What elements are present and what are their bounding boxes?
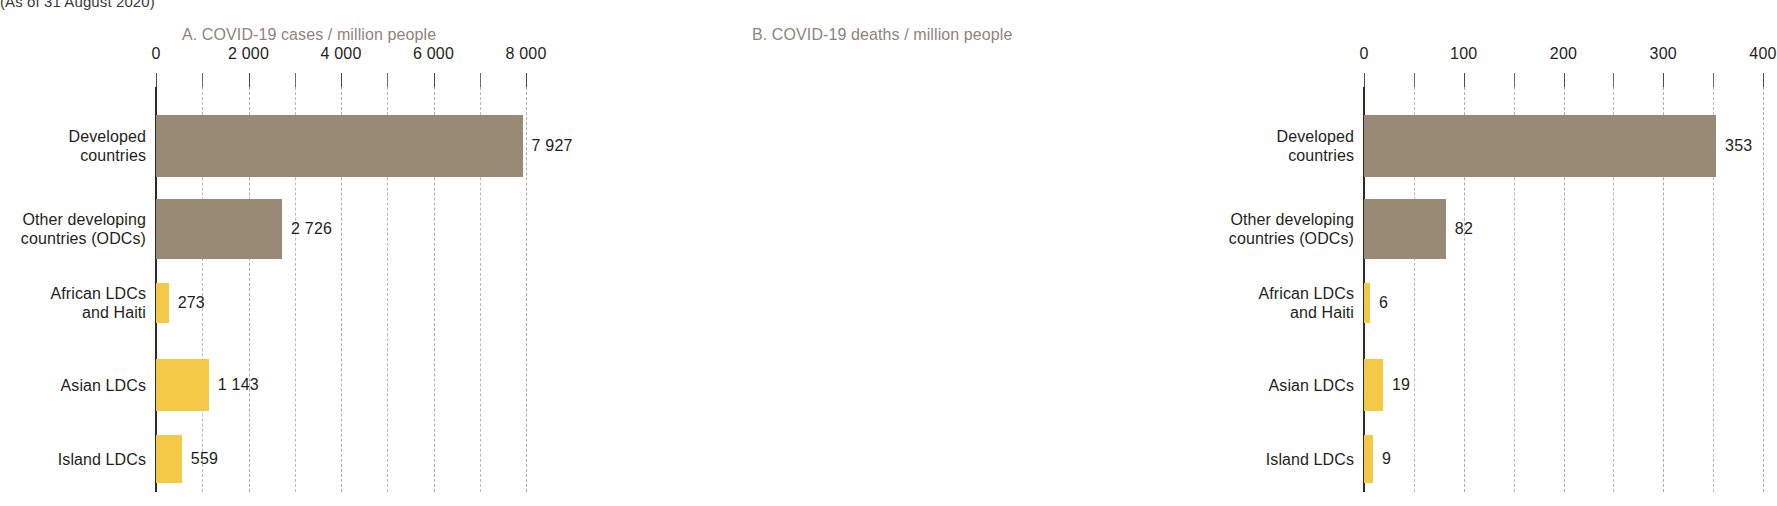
axis-tick-minor	[387, 73, 388, 87]
axis-tick-major	[1564, 73, 1565, 87]
category-label: African LDCs and Haiti	[1174, 284, 1354, 322]
bar-value-label: 2 726	[291, 220, 332, 238]
bar-row: Other developing countries (ODCs)2 726	[156, 199, 526, 259]
panel-a-title: A. COVID-19 cases / million people	[182, 26, 436, 44]
bar[interactable]	[1364, 435, 1373, 483]
axis-tick-label: 300	[1650, 45, 1677, 63]
axis-tick-label: 0	[1359, 45, 1368, 63]
bar-value-label: 19	[1392, 376, 1410, 394]
bar-row: Developed countries353	[1364, 115, 1763, 177]
axis-tick-minor	[295, 73, 296, 87]
axis-tick-minor	[1414, 73, 1415, 87]
bar-value-label: 273	[178, 294, 205, 312]
category-label: African LDCs and Haiti	[0, 284, 146, 322]
panel-covid-deaths: B. COVID-19 deaths / million people 0100…	[598, 0, 1196, 506]
bar-row: Island LDCs9	[1364, 435, 1763, 483]
axis-tick-major	[1663, 73, 1664, 87]
axis-tick-label: 400	[1749, 45, 1776, 63]
bar-row: Island LDCs559	[156, 435, 526, 483]
axis-tick-minor	[1713, 73, 1714, 87]
bar-row: Asian LDCs19	[1364, 359, 1763, 411]
category-label: Other developing countries (ODCs)	[0, 210, 146, 248]
axis-tick-major	[1364, 73, 1365, 87]
bar-value-label: 82	[1455, 220, 1473, 238]
axis-tick-label: 200	[1550, 45, 1577, 63]
axis-tick-major	[249, 73, 250, 87]
bar-value-label: 6	[1379, 294, 1388, 312]
bar[interactable]	[1364, 283, 1370, 323]
axis-tick-minor	[202, 73, 203, 87]
panel-a-plot-area: 02 0004 0006 0008 000Developed countries…	[156, 95, 526, 491]
bar-row: African LDCs and Haiti273	[156, 283, 526, 323]
axis-tick-minor	[1514, 73, 1515, 87]
axis-tick-major	[1763, 73, 1764, 87]
axis-tick-label: 100	[1450, 45, 1477, 63]
category-label: Other developing countries (ODCs)	[1174, 210, 1354, 248]
bar[interactable]	[156, 359, 209, 411]
axis-tick-minor	[480, 73, 481, 87]
axis-tick-label: 4 000	[320, 45, 361, 63]
gridline-major	[1763, 87, 1764, 492]
gridline-major	[526, 87, 527, 492]
bar[interactable]	[156, 199, 282, 259]
category-label: Developed countries	[1174, 127, 1354, 165]
bar-row: Other developing countries (ODCs)82	[1364, 199, 1763, 259]
bar-value-label: 1 143	[218, 376, 259, 394]
panel-b-plot-area: 0100200300400Developed countries353Other…	[1364, 95, 1763, 491]
axis-tick-major	[1464, 73, 1465, 87]
category-label: Island LDCs	[1174, 450, 1354, 469]
axis-tick-major	[156, 73, 157, 87]
bar-value-label: 9	[1382, 450, 1391, 468]
axis-tick-major	[526, 73, 527, 87]
axis-tick-label: 8 000	[505, 45, 546, 63]
axis-tick-minor	[1613, 73, 1614, 87]
bar-value-label: 559	[191, 450, 218, 468]
bar[interactable]	[1364, 199, 1446, 259]
axis-tick-label: 2 000	[228, 45, 269, 63]
axis-tick-label: 6 000	[413, 45, 454, 63]
category-label: Asian LDCs	[0, 376, 146, 395]
bar-row: Asian LDCs1 143	[156, 359, 526, 411]
category-label: Developed countries	[0, 127, 146, 165]
bar[interactable]	[156, 435, 182, 483]
bar-row: Developed countries7 927	[156, 115, 526, 177]
bar[interactable]	[1364, 359, 1383, 411]
bar[interactable]	[156, 283, 169, 323]
bar-value-label: 353	[1725, 137, 1752, 155]
bar[interactable]	[156, 115, 523, 177]
axis-tick-major	[434, 73, 435, 87]
bar[interactable]	[1364, 115, 1716, 177]
axis-tick-major	[341, 73, 342, 87]
bar-value-label: 7 927	[532, 137, 573, 155]
panel-covid-cases: A. COVID-19 cases / million people 02 00…	[0, 0, 598, 506]
bar-row: African LDCs and Haiti6	[1364, 283, 1763, 323]
panel-b-title: B. COVID-19 deaths / million people	[752, 26, 1013, 44]
category-label: Asian LDCs	[1174, 376, 1354, 395]
category-label: Island LDCs	[0, 450, 146, 469]
axis-tick-label: 0	[151, 45, 160, 63]
